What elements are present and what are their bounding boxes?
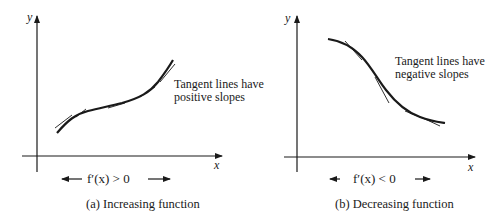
condition-b: f′(x) < 0 xyxy=(353,171,396,187)
y-axis-label-a: y xyxy=(27,10,32,25)
increasing-curve xyxy=(55,60,175,133)
y-axis-label-b: y xyxy=(285,11,290,26)
tangent-line xyxy=(345,41,362,60)
tangent-line xyxy=(140,87,155,97)
x-axis-label-b: x xyxy=(468,160,473,175)
condition-a: f′(x) > 0 xyxy=(87,171,130,187)
tangent-line xyxy=(405,111,425,119)
tangent-line xyxy=(160,64,175,82)
caption-b: (b) Decreasing function xyxy=(335,197,454,212)
annotation-b: Tangent lines have negative slopes xyxy=(395,55,485,81)
annotation-b-line2: negative slopes xyxy=(395,68,485,81)
caption-a: (a) Increasing function xyxy=(86,197,200,212)
panel-b-axes xyxy=(284,16,475,172)
annotation-a: Tangent lines have positive slopes xyxy=(174,78,264,104)
x-axis-label-a: x xyxy=(214,158,219,173)
decreasing-curve xyxy=(328,39,445,126)
figure-canvas xyxy=(0,0,504,224)
annotation-a-line2: positive slopes xyxy=(174,91,264,104)
